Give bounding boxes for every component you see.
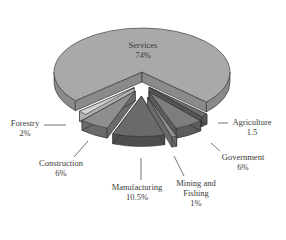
label-mining-name-2: Fishing [170,188,222,198]
label-manufacturing-name: Manufacturing [105,182,169,192]
leader-construction [74,141,88,157]
label-government: Government 6% [216,152,270,172]
label-construction: Construction 6% [33,158,89,178]
label-services: Services 74% [118,40,168,60]
label-manufacturing: Manufacturing 10.5% [105,182,169,202]
label-agriculture: Agriculture 1.5 [226,117,278,137]
leader-government [211,143,220,151]
label-forestry: Forestry 2% [6,118,44,138]
leader-mining [174,156,184,176]
label-agriculture-value: 1.5 [226,127,278,137]
label-mining-name-1: Mining and [170,178,222,188]
label-forestry-value: 2% [6,128,44,138]
label-construction-value: 6% [33,168,89,178]
label-services-name: Services [118,40,168,50]
label-mining-fishing: Mining and Fishing 1% [170,178,222,208]
label-construction-name: Construction [33,158,89,168]
label-manufacturing-value: 10.5% [105,192,169,202]
label-mining-value: 1% [170,198,222,208]
label-forestry-name: Forestry [6,118,44,128]
label-government-value: 6% [216,162,270,172]
label-services-value: 74% [118,50,168,60]
label-government-name: Government [216,152,270,162]
label-agriculture-name: Agriculture [226,117,278,127]
